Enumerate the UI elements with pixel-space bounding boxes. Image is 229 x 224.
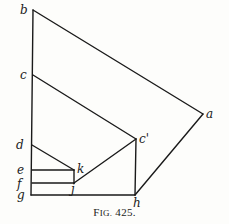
label-d: d bbox=[16, 138, 24, 152]
label-a: a bbox=[206, 107, 213, 121]
geometric-diagram: b c d e f g a c' k j h bbox=[0, 0, 229, 224]
caption-smallcaps: IG. bbox=[100, 208, 113, 218]
label-c: c bbox=[20, 68, 27, 82]
label-k: k bbox=[77, 162, 84, 176]
label-e: e bbox=[17, 163, 24, 177]
line-a-h bbox=[135, 114, 203, 195]
label-c-prime: c' bbox=[139, 132, 149, 146]
label-g: g bbox=[17, 188, 25, 202]
line-c-cprime bbox=[33, 75, 136, 139]
label-b: b bbox=[20, 3, 28, 17]
line-d-k bbox=[32, 145, 74, 170]
line-cprime-h bbox=[135, 139, 136, 195]
line-b-a bbox=[33, 10, 203, 114]
label-j: j bbox=[68, 182, 75, 196]
figure-425: b c d e f g a c' k j h FIG. 425. bbox=[0, 0, 229, 224]
caption-number: 425. bbox=[115, 206, 135, 218]
line-cprime-j bbox=[74, 139, 136, 183]
figure-caption: FIG. 425. bbox=[0, 206, 229, 218]
line-b-g bbox=[31, 10, 33, 195]
